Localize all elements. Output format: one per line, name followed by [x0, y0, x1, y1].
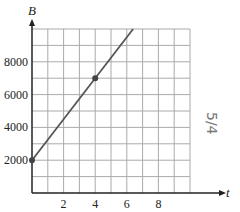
line-chart: 24682000400060008000 t B 5/4	[0, 0, 240, 212]
y-tick-label: 2000	[4, 153, 28, 167]
data-point	[29, 157, 35, 163]
x-tick-label: 8	[155, 197, 161, 211]
x-axis-label: t	[226, 185, 230, 200]
y-tick-label: 6000	[4, 88, 28, 102]
x-axis-arrow-icon	[219, 190, 226, 196]
x-tick-label: 6	[124, 197, 130, 211]
y-axis-label: B	[28, 3, 36, 18]
y-tick-label: 4000	[4, 120, 28, 134]
grid	[32, 29, 190, 193]
x-tick-label: 4	[92, 197, 98, 211]
data-point	[92, 75, 98, 81]
x-tick-label: 2	[61, 197, 67, 211]
data-series	[29, 29, 133, 163]
y-axis-arrow-icon	[29, 19, 35, 26]
handwritten-annotation: 5/4	[204, 112, 220, 135]
y-tick-label: 8000	[4, 55, 28, 69]
